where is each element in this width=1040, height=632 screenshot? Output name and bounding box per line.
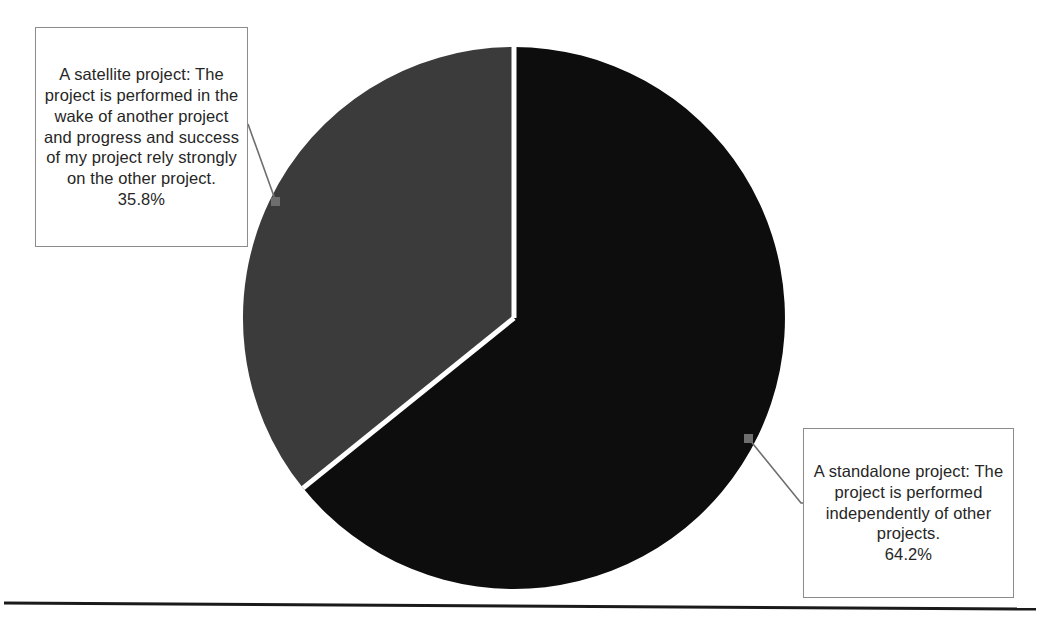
pie-slices: [243, 47, 785, 589]
callout-satellite-percent: 35.8%: [118, 189, 165, 210]
callout-standalone-text: A standalone project: The project is per…: [804, 461, 1013, 545]
callout-satellite[interactable]: A satellite project: The project is perf…: [35, 27, 248, 247]
leader-line-standalone: [744, 434, 803, 503]
callout-satellite-text: A satellite project: The project is perf…: [36, 64, 247, 190]
callout-standalone-percent: 64.2%: [885, 544, 932, 565]
baseline-rule: [4, 603, 1036, 609]
pie-chart-page: A satellite project: The project is perf…: [0, 0, 1040, 632]
callout-standalone[interactable]: A standalone project: The project is per…: [803, 428, 1014, 598]
